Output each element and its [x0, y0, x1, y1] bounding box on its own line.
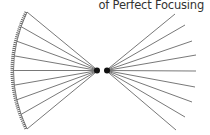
focal-point: [94, 68, 110, 74]
outgoing-rays: [106, 14, 196, 130]
incoming-ray: [17, 41, 98, 70]
incoming-ray: [17, 71, 98, 100]
outgoing-ray: [106, 71, 176, 131]
outgoing-ray: [106, 14, 175, 71]
incoming-rays: [14, 12, 99, 129]
focusing-diagram: [0, 0, 210, 135]
outgoing-ray: [106, 71, 192, 103]
outgoing-ray: [106, 71, 196, 72]
incoming-ray: [27, 71, 98, 130]
focus-converge-mark: [94, 68, 100, 74]
incoming-ray: [27, 12, 98, 71]
focus-diverge-mark: [104, 68, 110, 74]
